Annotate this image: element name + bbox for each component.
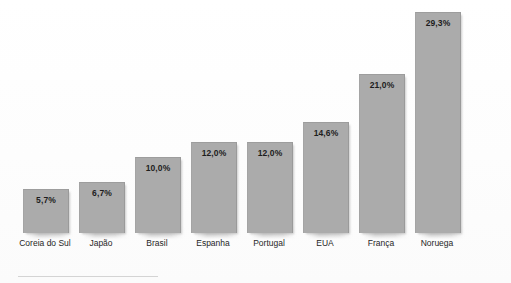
bar-noruega[interactable]: 29,3%	[415, 12, 461, 233]
category-axis: Coreia do SulJapãoBrasilEspanhaPortugalE…	[0, 236, 511, 256]
bar-group[interactable]: 12,0%	[247, 143, 291, 233]
bar-frança[interactable]: 21,0%	[359, 74, 405, 233]
bar-coreia-do-sul[interactable]: 5,7%	[23, 189, 69, 233]
bar-value-label: 10,0%	[136, 163, 180, 173]
scan-artifact-line	[18, 276, 158, 277]
bar-chart: 5,7%6,7%10,0%12,0%12,0%14,6%21,0%29,3% C…	[0, 0, 511, 283]
bar-japão[interactable]: 6,7%	[79, 182, 125, 233]
bar-value-label: 5,7%	[24, 195, 68, 205]
bar-group[interactable]: 14,6%	[303, 123, 347, 233]
bar-value-label: 21,0%	[360, 80, 404, 90]
bar-value-label: 29,3%	[416, 18, 460, 28]
category-label-noruega: Noruega	[401, 236, 473, 250]
bar-group[interactable]: 10,0%	[135, 158, 179, 233]
bar-group[interactable]: 21,0%	[359, 75, 403, 233]
bar-brasil[interactable]: 10,0%	[135, 157, 181, 233]
bar-value-label: 12,0%	[192, 148, 236, 158]
bar-portugal[interactable]: 12,0%	[247, 142, 293, 233]
bar-value-label: 14,6%	[304, 128, 348, 138]
bar-group[interactable]: 5,7%	[23, 190, 67, 233]
plot-area: 5,7%6,7%10,0%12,0%12,0%14,6%21,0%29,3%	[0, 0, 511, 233]
bar-group[interactable]: 29,3%	[415, 13, 459, 233]
bar-group[interactable]: 6,7%	[79, 183, 123, 233]
bar-espanha[interactable]: 12,0%	[191, 142, 237, 233]
bar-eua[interactable]: 14,6%	[303, 122, 349, 233]
bar-group[interactable]: 12,0%	[191, 143, 235, 233]
bar-value-label: 12,0%	[248, 148, 292, 158]
bar-value-label: 6,7%	[80, 188, 124, 198]
